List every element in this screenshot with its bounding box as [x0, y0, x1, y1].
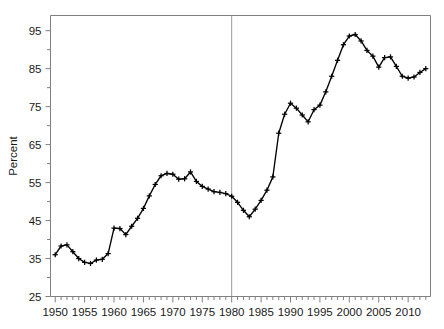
y-tick-label: 25 — [29, 291, 42, 303]
y-tick-label: 55 — [29, 177, 42, 189]
x-tick-label: 1990 — [278, 306, 304, 318]
x-tick-label: 1985 — [248, 306, 274, 318]
y-axis-title-text: Percent — [7, 135, 19, 175]
x-tick-label: 2005 — [366, 306, 392, 318]
series-line — [55, 34, 426, 263]
data-series-layer — [53, 32, 429, 266]
data-point-marker — [282, 112, 287, 117]
data-point-marker — [276, 131, 281, 136]
x-tick-label: 1980 — [219, 306, 245, 318]
chart-container: 1950195519601965197019751980198519901995… — [0, 0, 444, 329]
y-axis-title: Percent — [7, 135, 19, 175]
line-chart: 1950195519601965197019751980198519901995… — [0, 0, 444, 329]
x-tick-label: 1950 — [42, 306, 68, 318]
data-point-marker — [329, 74, 334, 79]
y-axis-ticks — [46, 31, 51, 297]
data-point-marker — [223, 191, 228, 196]
data-point-marker — [270, 174, 275, 179]
data-point-marker — [206, 186, 211, 191]
data-point-marker — [164, 171, 169, 176]
x-tick-label: 1995 — [307, 306, 333, 318]
x-tick-label: 1960 — [101, 306, 127, 318]
y-tick-label: 35 — [29, 253, 42, 265]
x-tick-label: 1955 — [72, 306, 98, 318]
y-tick-label: 95 — [29, 25, 42, 37]
y-tick-label: 85 — [29, 63, 42, 75]
data-point-marker — [111, 226, 116, 231]
x-tick-label: 2010 — [395, 306, 421, 318]
x-tick-label: 2000 — [337, 306, 363, 318]
x-tick-label: 1970 — [160, 306, 186, 318]
data-point-marker — [147, 193, 152, 198]
data-point-marker — [406, 76, 411, 81]
y-tick-label: 45 — [29, 215, 42, 227]
y-tick-label: 75 — [29, 101, 42, 113]
x-tick-label: 1975 — [189, 306, 215, 318]
x-axis-tick-labels: 1950195519601965197019751980198519901995… — [42, 306, 421, 318]
y-tick-label: 65 — [29, 139, 42, 151]
data-point-marker — [211, 189, 216, 194]
x-axis-ticks — [55, 297, 426, 303]
x-tick-label: 1965 — [131, 306, 157, 318]
data-point-marker — [217, 190, 222, 195]
data-point-marker — [323, 89, 328, 94]
y-axis-tick-labels: 2535455565758595 — [29, 25, 42, 303]
data-point-marker — [335, 58, 340, 63]
